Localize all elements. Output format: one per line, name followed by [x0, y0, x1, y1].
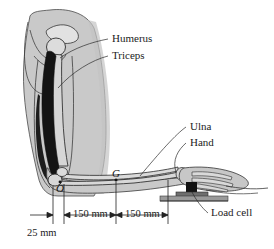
label-humerus: Humerus: [112, 33, 152, 44]
dimension-150mm-second: 150 mm: [125, 209, 160, 220]
label-hand: Hand: [190, 137, 214, 148]
label-ulna: Ulna: [190, 121, 211, 132]
dimension-25mm: 25 mm: [27, 228, 56, 239]
label-load-cell: Load cell: [211, 207, 252, 218]
point-label-g: G: [112, 168, 120, 179]
arm-biomechanics-figure: Humerus Triceps Ulna Hand Load cell G O …: [0, 0, 274, 249]
support-platform: [160, 196, 228, 201]
dimension-150mm-first: 150 mm: [73, 209, 108, 220]
label-triceps: Triceps: [112, 50, 145, 61]
point-label-o: O: [56, 183, 64, 194]
